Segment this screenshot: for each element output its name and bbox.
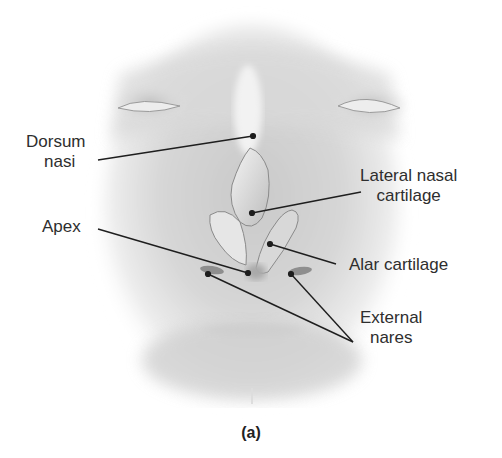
label-external-nares: External nares [360, 308, 422, 348]
figure-caption: (a) [0, 424, 502, 442]
nose-anatomy-figure: Dorsum nasi Lateral nasal cartilage Apex… [0, 0, 502, 458]
label-lateral-nasal-cartilage-line1: Lateral nasal [360, 166, 457, 186]
label-dorsum-nasi-line1: Dorsum [26, 132, 86, 152]
label-dorsum-nasi-line2: nasi [26, 152, 86, 172]
label-lateral-nasal-cartilage: Lateral nasal cartilage [360, 166, 457, 206]
label-apex: Apex [42, 217, 81, 237]
label-external-nares-line1: External [360, 308, 422, 328]
label-external-nares-line2: nares [360, 328, 422, 348]
left-eye [110, 83, 190, 123]
right-eye [332, 85, 412, 125]
label-dorsum-nasi: Dorsum nasi [26, 132, 86, 172]
label-apex-text: Apex [42, 217, 81, 237]
label-lateral-nasal-cartilage-line2: cartilage [360, 186, 457, 206]
label-alar-cartilage: Alar cartilage [349, 255, 448, 275]
label-alar-cartilage-text: Alar cartilage [349, 255, 448, 275]
